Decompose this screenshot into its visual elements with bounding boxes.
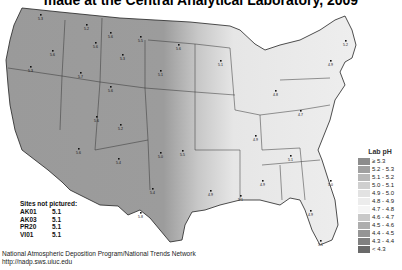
legend-swatch — [358, 182, 370, 189]
site-marker — [182, 150, 184, 152]
site-ph-label: 5.3 — [28, 69, 33, 73]
site-marker — [220, 60, 222, 62]
site-ph-label: 4.9 — [208, 193, 213, 197]
legend-label: 5.2 - 5.3 — [372, 166, 394, 172]
site-marker — [30, 66, 32, 68]
site-row: AK035.1 — [20, 216, 77, 224]
legend-swatch — [358, 198, 370, 205]
legend-label: ≥ 5.3 — [372, 158, 385, 164]
site-ph-label: 5.1 — [158, 73, 163, 77]
site-marker — [240, 195, 242, 197]
legend: Lab pH ≥ 5.35.2 - 5.35.1 - 5.25.0 - 5.14… — [358, 148, 402, 253]
site-marker — [275, 90, 277, 92]
site-ph-label: 5.6 — [94, 119, 99, 123]
site-marker — [210, 190, 212, 192]
site-marker — [330, 60, 332, 62]
legend-label: 4.4 - 4.5 — [372, 230, 394, 236]
site-id: AK01 — [20, 208, 52, 216]
legend-item: 4.6 - 4.7 — [358, 213, 402, 221]
legend-item: 4.8 - 4.9 — [358, 197, 402, 205]
site-marker — [95, 42, 97, 44]
legend-label: 4.8 - 4.9 — [372, 198, 394, 204]
legend-swatch — [358, 214, 370, 221]
footer-url[interactable]: http://nadp.sws.uiuc.edu — [2, 258, 196, 266]
site-marker — [160, 152, 162, 154]
site-marker — [345, 40, 347, 42]
site-marker — [118, 158, 120, 160]
site-marker — [86, 24, 88, 26]
legend-label: 4.6 - 4.7 — [372, 214, 394, 220]
legend-swatch — [358, 190, 370, 197]
site-ph-label: 5.1 — [238, 198, 243, 202]
site-ph-label: 5.5 — [138, 39, 143, 43]
site-ph-label: 5.6 — [50, 53, 55, 57]
site-ph-label: 4.7 — [298, 113, 303, 117]
site-marker — [310, 210, 312, 212]
legend-item: 4.5 - 4.6 — [358, 221, 402, 229]
site-ph-label: 5.2 — [84, 27, 89, 31]
legend-item: 4.9 - 5.0 — [358, 189, 402, 197]
site-marker — [262, 180, 264, 182]
sites-not-pictured-title: Sites not pictured: — [20, 200, 77, 207]
legend-item: 5.2 - 5.3 — [358, 165, 402, 173]
site-marker — [330, 180, 332, 182]
site-marker — [140, 36, 142, 38]
legend-item: ≥ 5.3 — [358, 157, 402, 165]
site-ph-label: 5.5 — [180, 153, 185, 157]
site-ph-label: 5.7 — [78, 75, 83, 79]
legend-item: 4.7 - 4.8 — [358, 205, 402, 213]
site-marker — [160, 70, 162, 72]
sites-not-pictured: Sites not pictured: AK015.1 AK035.1 PR20… — [20, 200, 77, 238]
legend-label: 4.5 - 4.6 — [372, 222, 394, 228]
site-ph-label: 5.2 — [343, 43, 348, 47]
site-id: VI01 — [20, 231, 52, 239]
site-ph-label: 5.3 — [38, 17, 43, 21]
site-ph-label: 4.9 — [260, 183, 265, 187]
site-row: PR205.1 — [20, 223, 77, 231]
site-marker — [96, 116, 98, 118]
site-marker — [40, 14, 42, 16]
site-marker — [120, 124, 122, 126]
site-ph-label: 5.3 — [120, 57, 125, 61]
site-marker — [80, 72, 82, 74]
site-ph-label: 4.8 — [273, 93, 278, 97]
site-marker — [52, 50, 54, 52]
legend-item: 4.4 - 4.5 — [358, 229, 402, 237]
legend-label: < 4.3 — [372, 246, 386, 252]
site-ph-label: 5.6 — [76, 151, 81, 155]
legend-swatch — [358, 166, 370, 173]
legend-item: < 4.3 — [358, 245, 402, 253]
legend-label: 4.7 - 4.8 — [372, 206, 394, 212]
site-ph-label: 4.9 — [253, 138, 258, 142]
legend-item: 5.0 - 5.1 — [358, 181, 402, 189]
site-marker — [140, 212, 142, 214]
legend-swatch — [358, 246, 370, 253]
site-ph-label: 5.1 — [288, 158, 293, 162]
site-ph-label: 5.8 — [138, 215, 143, 219]
site-marker — [152, 188, 154, 190]
footer: National Atmospheric Deposition Program/… — [2, 250, 196, 265]
site-marker — [290, 155, 292, 157]
site-id: AK03 — [20, 216, 52, 224]
site-ph-label: 5.1 — [318, 243, 323, 247]
site-ph-label: 5.6 — [93, 45, 98, 49]
site-id: PR20 — [20, 223, 52, 231]
site-marker — [110, 32, 112, 34]
site-ph-label: 5.0 — [158, 155, 163, 159]
legend-swatch — [358, 158, 370, 165]
site-marker — [255, 135, 257, 137]
site-ph-label: 4.9 — [308, 213, 313, 217]
site-marker — [78, 148, 80, 150]
site-marker — [122, 54, 124, 56]
site-value: 5.1 — [52, 216, 61, 224]
legend-label: 4.9 - 5.0 — [372, 190, 394, 196]
legend-item: 5.1 - 5.2 — [358, 173, 402, 181]
site-row: AK015.1 — [20, 208, 77, 216]
site-ph-label: 4.9 — [328, 63, 333, 67]
legend-swatch — [358, 222, 370, 229]
site-value: 5.1 — [52, 223, 61, 231]
legend-title: Lab pH — [358, 148, 402, 155]
site-value: 5.1 — [52, 231, 61, 239]
site-marker — [110, 86, 112, 88]
legend-swatch — [358, 238, 370, 245]
